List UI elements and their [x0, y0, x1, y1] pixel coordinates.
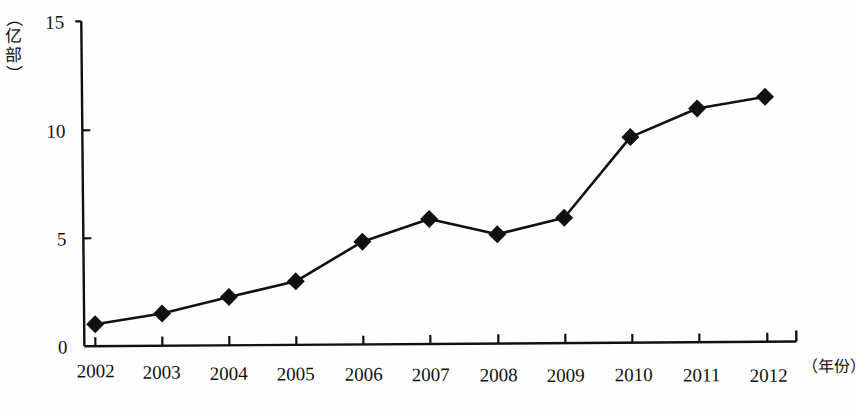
- data-markers: [84, 88, 776, 334]
- axes-group: [75, 15, 796, 349]
- data-series-line: [93, 97, 767, 324]
- series-polyline: [93, 97, 767, 324]
- data-point-2012: [756, 88, 774, 106]
- y-axis-line: [81, 21, 84, 346]
- data-point-2008: [488, 225, 506, 243]
- data-point-2006: [353, 233, 371, 251]
- chart-rotation-wrapper: （ 亿 部 ） 15 10 5 0 2002 2003 2004 2005 20…: [0, 0, 857, 414]
- data-point-2004: [220, 288, 238, 306]
- data-point-2011: [688, 99, 706, 117]
- data-point-2002: [86, 315, 104, 333]
- data-point-2005: [287, 272, 305, 290]
- data-point-2007: [420, 210, 438, 228]
- data-point-2003: [153, 304, 171, 322]
- plot-area: [0, 0, 857, 414]
- x-axis-line: [84, 339, 796, 348]
